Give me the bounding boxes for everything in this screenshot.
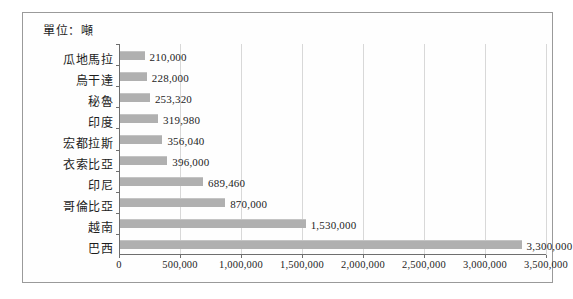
x-axis-tick-label: 3,000,000 bbox=[463, 259, 507, 270]
bar bbox=[119, 93, 150, 102]
bar-value-label: 1,530,000 bbox=[311, 219, 357, 231]
gridline bbox=[363, 44, 364, 255]
category-label: 烏干達 bbox=[76, 71, 114, 89]
bar-value-label: 228,000 bbox=[152, 72, 189, 84]
bar bbox=[119, 51, 145, 60]
chart-title: 單位：噸 bbox=[43, 21, 93, 39]
x-axis-tick bbox=[180, 255, 181, 258]
bar bbox=[119, 177, 203, 186]
category-label: 秘魯 bbox=[88, 92, 113, 110]
gridline bbox=[485, 44, 486, 255]
category-label: 宏都拉斯 bbox=[63, 134, 113, 152]
plot-area: 瓜地馬拉210,000烏干達228,000秘魯253,320印度319,980宏… bbox=[119, 44, 546, 255]
category-label: 印尼 bbox=[88, 176, 113, 194]
y-axis-tick bbox=[116, 171, 119, 172]
bar-value-label: 396,000 bbox=[172, 156, 209, 168]
category-label: 瓜地馬拉 bbox=[63, 50, 113, 68]
x-axis-tick-label: 1,500,000 bbox=[280, 259, 324, 270]
x-axis-tick-label: 2,000,000 bbox=[341, 259, 385, 270]
x-axis-tick bbox=[241, 255, 242, 258]
y-axis-tick bbox=[116, 128, 119, 129]
bar-value-label: 3,300,000 bbox=[527, 240, 573, 252]
bar bbox=[119, 156, 167, 165]
gridline bbox=[546, 44, 547, 255]
bar bbox=[119, 198, 225, 207]
y-axis-tick bbox=[116, 44, 119, 45]
bar-value-label: 319,980 bbox=[163, 114, 200, 126]
x-axis-line bbox=[119, 254, 546, 255]
x-axis-tick-label: 2,500,000 bbox=[402, 259, 446, 270]
bar-value-label: 253,320 bbox=[155, 93, 192, 105]
x-axis-tick bbox=[424, 255, 425, 258]
category-label: 印度 bbox=[88, 113, 113, 131]
x-axis-tick bbox=[302, 255, 303, 258]
bar-value-label: 356,040 bbox=[167, 135, 204, 147]
gridline bbox=[424, 44, 425, 255]
bar bbox=[119, 114, 158, 123]
bar bbox=[119, 135, 162, 144]
y-axis-tick bbox=[116, 150, 119, 151]
y-axis-tick bbox=[116, 65, 119, 66]
category-label: 越南 bbox=[88, 218, 113, 236]
x-axis-tick-label: 0 bbox=[116, 259, 121, 270]
y-axis-tick bbox=[116, 192, 119, 193]
x-axis-tick bbox=[485, 255, 486, 258]
x-axis-tick-label: 3,500,000 bbox=[524, 259, 568, 270]
x-axis-tick bbox=[546, 255, 547, 258]
y-axis-tick bbox=[116, 86, 119, 87]
x-axis-tick-label: 1,000,000 bbox=[219, 259, 263, 270]
chart-frame: 單位：噸 瓜地馬拉210,000烏干達228,000秘魯253,320印度319… bbox=[22, 12, 553, 283]
y-axis-tick bbox=[116, 234, 119, 235]
bar bbox=[119, 240, 522, 249]
x-axis-tick-label: 500,000 bbox=[162, 259, 198, 270]
bar-value-label: 870,000 bbox=[230, 198, 267, 210]
bar bbox=[119, 72, 147, 81]
x-axis-tick bbox=[363, 255, 364, 258]
x-axis-tick bbox=[119, 255, 120, 258]
bar-value-label: 210,000 bbox=[150, 51, 187, 63]
category-label: 巴西 bbox=[88, 239, 113, 257]
bar bbox=[119, 219, 306, 228]
y-axis-tick bbox=[116, 213, 119, 214]
category-label: 哥倫比亞 bbox=[63, 197, 113, 215]
y-axis-line bbox=[119, 44, 120, 255]
y-axis-tick bbox=[116, 107, 119, 108]
bar-value-label: 689,460 bbox=[208, 177, 245, 189]
category-label: 衣索比亞 bbox=[63, 155, 113, 173]
